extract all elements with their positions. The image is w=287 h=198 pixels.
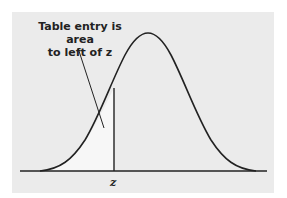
- annotation-leader-line: [78, 48, 104, 128]
- annotation-line-1: Table entry is area: [30, 20, 130, 46]
- shaded-area: [40, 88, 114, 171]
- z-axis-label: z: [110, 176, 116, 189]
- annotation-line-2: to left of z: [30, 46, 130, 59]
- annotation-text: Table entry is area to left of z: [30, 20, 130, 59]
